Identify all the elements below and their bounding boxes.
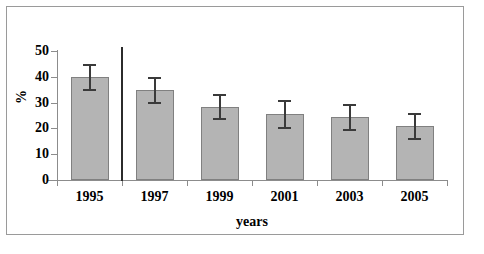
error-bar-cap-lower-2003	[343, 129, 356, 131]
x-tick-mark	[187, 180, 188, 186]
x-tick-label-1995: 1995	[76, 189, 104, 205]
y-tick-mark	[51, 103, 57, 104]
vertical-separator-line	[121, 47, 123, 181]
y-tick-label: 20	[35, 120, 49, 136]
error-bar-cap-upper-2001	[278, 100, 291, 102]
y-tick-label: 0	[42, 172, 49, 188]
error-bar-cap-lower-1997	[148, 102, 161, 104]
y-tick-mark	[51, 77, 57, 78]
x-tick-label-2001: 2001	[271, 189, 299, 205]
x-tick-label-2003: 2003	[336, 189, 364, 205]
x-tick-mark	[382, 180, 383, 186]
x-tick-mark	[57, 180, 58, 186]
figure-container: % 0 10 20 30 40 50	[0, 0, 484, 254]
error-bar-cap-lower-2005	[408, 138, 421, 140]
x-tick-label-2005: 2005	[401, 189, 429, 205]
error-bar-cap-upper-1995	[83, 64, 96, 66]
error-bar-cap-upper-1997	[148, 77, 161, 79]
y-axis-title: %	[14, 90, 30, 104]
error-bar-cap-lower-1995	[83, 89, 96, 91]
y-axis-line	[57, 50, 58, 181]
x-axis-title: years	[57, 214, 447, 230]
y-tick-mark	[51, 154, 57, 155]
error-bar-cap-upper-2005	[408, 113, 421, 115]
y-tick-label: 40	[35, 69, 49, 85]
plot-area: 0 10 20 30 40 50	[57, 50, 447, 181]
y-tick-mark	[51, 128, 57, 129]
y-tick-label: 30	[35, 95, 49, 111]
error-bar-cap-upper-1999	[213, 94, 226, 96]
bar-1995	[71, 77, 109, 180]
error-bar-cap-lower-2001	[278, 127, 291, 129]
error-bar-line-1995	[89, 64, 91, 90]
x-tick-mark	[252, 180, 253, 186]
y-tick-label: 50	[35, 43, 49, 59]
x-tick-label-1997: 1997	[141, 189, 169, 205]
x-tick-mark	[317, 180, 318, 186]
error-bar-line-1999	[219, 94, 221, 120]
x-axis-line	[47, 180, 447, 181]
y-tick-mark	[51, 51, 57, 52]
error-bar-line-2005	[414, 113, 416, 139]
error-bar-line-1997	[154, 77, 156, 103]
error-bar-cap-upper-2003	[343, 104, 356, 106]
y-tick-label: 10	[35, 146, 49, 162]
error-bar-cap-lower-1999	[213, 118, 226, 120]
x-tick-mark	[447, 180, 448, 186]
error-bar-line-2001	[284, 100, 286, 128]
x-tick-label-1999: 1999	[206, 189, 234, 205]
error-bar-line-2003	[349, 104, 351, 130]
